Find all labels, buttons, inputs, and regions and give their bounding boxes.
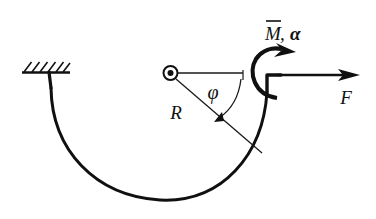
horizontal-reference-line <box>178 70 243 80</box>
figure-canvas: R φ F M , α <box>0 0 376 219</box>
center-dot-icon <box>168 70 174 76</box>
bar-free-end-elbow <box>267 75 281 92</box>
bar-arc <box>51 88 267 200</box>
label-alpha: α <box>290 23 301 44</box>
label-radius-R: R <box>169 102 182 123</box>
curved-bar <box>49 72 281 200</box>
label-angle-phi: φ <box>207 81 218 104</box>
label-force-F: F <box>339 87 352 108</box>
force-arrow-F <box>277 69 360 81</box>
support-hatching <box>24 62 70 72</box>
bar-fixed-end-stub <box>49 72 51 88</box>
label-moment-group: M , α <box>264 21 301 44</box>
mechanics-diagram: R φ F M , α <box>0 0 376 219</box>
moment-arrow <box>253 43 296 98</box>
fixed-support <box>22 62 70 73</box>
center-of-curvature <box>164 66 178 80</box>
phi-arc <box>219 79 241 118</box>
label-comma: , <box>280 23 285 44</box>
